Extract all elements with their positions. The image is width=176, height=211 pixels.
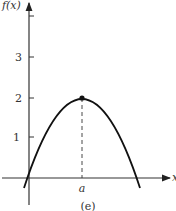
figure-caption: (e) [80,200,95,211]
y-tick-label-2: 2 [15,92,22,105]
x-axis-label: x [172,171,176,184]
chart-canvas: f(x) 1 2 3 a x (e) [0,0,176,211]
y-tick-label-1: 1 [13,131,20,144]
maximum-point [79,95,84,100]
x-tick-label-a: a [79,182,86,195]
y-tick-label-3: 3 [15,51,22,64]
y-axis-label: f(x) [1,0,21,12]
